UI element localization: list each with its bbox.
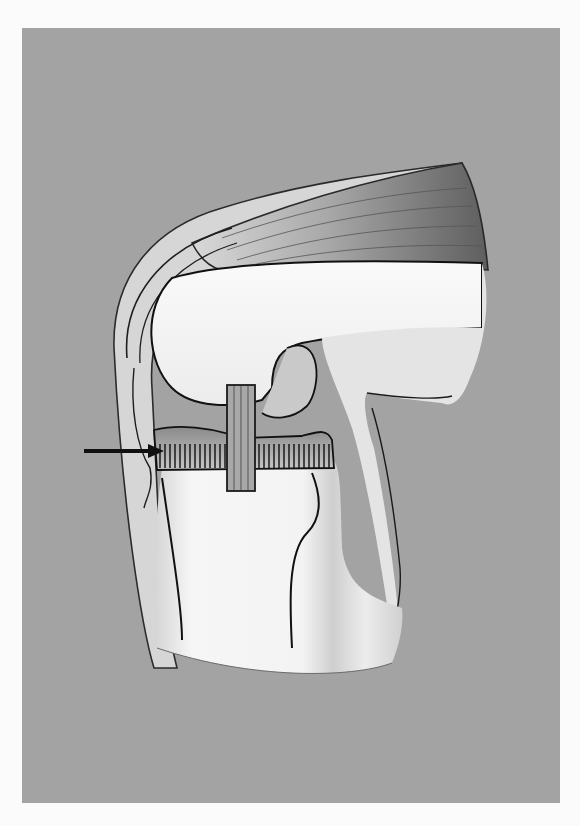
illustration-plate (22, 28, 560, 803)
knee-illustration (22, 28, 560, 803)
tibia (154, 458, 402, 673)
cruciate-ligament (227, 385, 255, 491)
